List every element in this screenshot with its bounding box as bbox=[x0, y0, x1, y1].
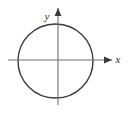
y-axis-label: y bbox=[44, 10, 50, 22]
figure-container: x y bbox=[0, 0, 128, 113]
x-axis-label: x bbox=[115, 53, 121, 65]
circle-curve bbox=[18, 24, 93, 98]
x-axis-right-arrowhead-icon bbox=[104, 57, 112, 64]
circle-graph-figure: x y bbox=[0, 0, 128, 113]
y-axis-up-arrowhead-icon bbox=[55, 8, 62, 16]
